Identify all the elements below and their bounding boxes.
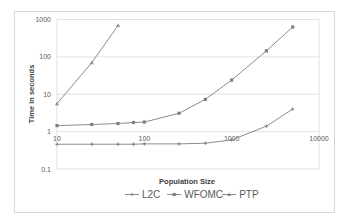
series-lines <box>55 24 295 147</box>
y-tick-label: 1000 <box>35 16 51 23</box>
series-wfomc <box>55 25 294 127</box>
y-tick-label: 10 <box>43 91 51 98</box>
x-axis-title: Population Size <box>159 177 215 186</box>
x-tick-label: 10 <box>53 135 61 142</box>
x-tick-label: 100 <box>138 135 150 142</box>
y-tick-label: 1 <box>47 128 51 135</box>
x-tick-label: 10000 <box>309 135 329 142</box>
series-ptp <box>55 24 120 106</box>
series-l2c <box>55 107 294 146</box>
legend-item-wfomc: WFOMC <box>167 189 223 200</box>
line-chart: 0.11101001000 10100100010000 Time in sec… <box>0 0 352 221</box>
y-tick-label: 100 <box>39 53 51 60</box>
x-axis-ticks: 10100100010000 <box>53 135 329 142</box>
legend: L2CWFOMCPTP <box>125 189 259 200</box>
gridlines <box>57 20 319 170</box>
legend-item-l2c: L2C <box>125 189 160 200</box>
legend-label: L2C <box>142 189 160 200</box>
y-axis-title: Time in seconds <box>27 65 36 124</box>
legend-label: PTP <box>239 189 259 200</box>
legend-label: WFOMC <box>184 189 223 200</box>
legend-item-ptp: PTP <box>222 189 259 200</box>
y-tick-label: 0.1 <box>41 166 51 173</box>
y-axis-ticks: 0.11101001000 <box>35 16 51 173</box>
